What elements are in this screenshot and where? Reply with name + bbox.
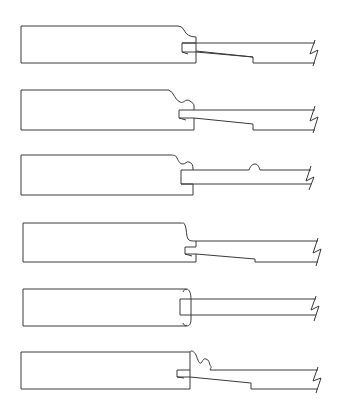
groove-board-outline bbox=[21, 155, 193, 195]
groove-board-outline bbox=[21, 26, 196, 63]
profile-line bbox=[194, 118, 315, 130]
profile-line bbox=[177, 370, 190, 377]
groove-board-outline bbox=[23, 289, 191, 326]
profile-line bbox=[193, 164, 311, 170]
joint-profile-2 bbox=[21, 90, 318, 133]
profile-line bbox=[311, 296, 319, 321]
joint-profile-6 bbox=[21, 351, 321, 393]
groove-board-outline bbox=[21, 90, 194, 130]
profile-line bbox=[310, 40, 318, 66]
joint-profiles-diagram bbox=[0, 0, 341, 413]
profile-line bbox=[180, 299, 191, 315]
groove-board-outline bbox=[21, 352, 190, 389]
profile-line bbox=[183, 323, 187, 326]
profile-line bbox=[183, 289, 187, 292]
joint-profile-1 bbox=[21, 26, 318, 66]
profile-line bbox=[190, 351, 211, 370]
joint-profile-5 bbox=[23, 289, 319, 326]
joint-profile-3 bbox=[21, 155, 314, 195]
profile-line bbox=[196, 254, 318, 262]
joint-profile-4 bbox=[23, 223, 321, 266]
profile-line bbox=[196, 51, 315, 63]
profile-line bbox=[190, 377, 318, 389]
profile-line bbox=[182, 43, 253, 57]
groove-board-outline bbox=[23, 223, 196, 262]
